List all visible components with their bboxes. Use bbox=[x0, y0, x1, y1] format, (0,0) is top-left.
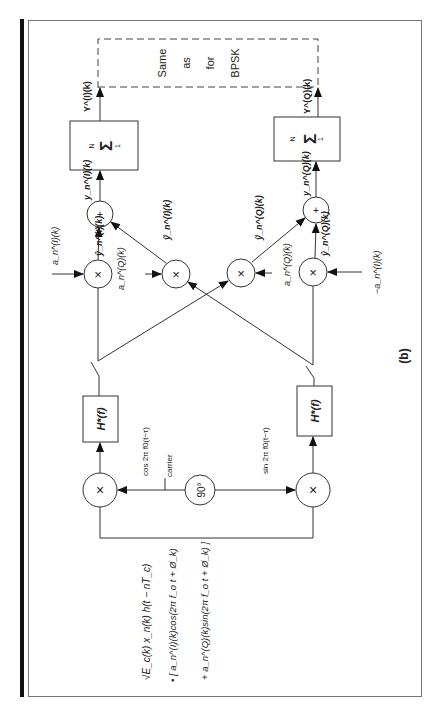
cross-line-q-to-left bbox=[188, 282, 313, 365]
formula-line-2: • [ a_n^(I)(k)cos(2π f_o t + Ø_k) bbox=[167, 548, 178, 682]
label-y-tilde-I: ỹ_n^(I)(k) bbox=[162, 200, 172, 241]
sampler-switch-i bbox=[91, 362, 99, 376]
label-a-n-I: a_n^(I)(k) bbox=[50, 227, 60, 265]
demod-multiplier-i-symbol: × bbox=[96, 482, 104, 498]
label-a-n-Q-left: a_n^(Q)(k) bbox=[116, 247, 126, 290]
multiplier-cross-right-symbol: × bbox=[237, 266, 245, 281]
multiplier-q-a-symbol: × bbox=[309, 265, 317, 280]
label-y-tilde-Q: ỹ_n^(Q)(k) bbox=[254, 195, 264, 241]
cross-line-i-to-right bbox=[98, 281, 228, 361]
annot-line-4: BPSK bbox=[229, 48, 241, 78]
adder-q-symbol: + bbox=[313, 205, 319, 216]
summer-i-block: Σ N 1 bbox=[70, 121, 138, 170]
multiplier-i-a-symbol: × bbox=[94, 267, 102, 282]
filter-i-label: H*(f) bbox=[95, 407, 107, 431]
cos-carrier-label: cos 2π f0(t−τ) bbox=[141, 427, 150, 476]
annot-line-3: for bbox=[204, 56, 216, 69]
formula-line-3: + a_n^(Q)(k)sin(2π f_o t + Ø_k) ] bbox=[199, 542, 210, 680]
demod-multiplier-q-symbol: × bbox=[309, 482, 317, 498]
annot-line-2: as bbox=[180, 57, 192, 69]
phase-shifter-label: 90° bbox=[196, 482, 207, 497]
label-a-n-Q-right: a_n^(Q)(k) bbox=[282, 243, 292, 286]
label-y-n-I: y_n^(I)(k) bbox=[82, 160, 92, 201]
figure-label: (b) bbox=[397, 348, 411, 363]
annot-line-1: Same bbox=[156, 49, 168, 78]
input-feed-line bbox=[100, 507, 313, 538]
multiplier-cross-left-symbol: × bbox=[172, 267, 180, 282]
sin-carrier-label: sin 2π f0(t−τ) bbox=[261, 427, 270, 474]
formula-line-1: √E_c(k) x_n(k) h(t − nT_c) bbox=[141, 564, 152, 680]
label-neg-a-n-I: −a_n^(I)(k) bbox=[372, 251, 382, 294]
input-signal-formula: √E_c(k) x_n(k) h(t − nT_c) • [ a_n^(I)(k… bbox=[141, 542, 210, 682]
label-Y-I: Y^(I)(k) bbox=[82, 81, 92, 112]
summer-i-upper: N bbox=[88, 143, 95, 148]
receiver-block-diagram: Same as for BPSK Σ N 1 Y^(I)(k) + y_n^(I… bbox=[0, 0, 430, 716]
label-y-hat-I: ŷ_n^(I)(k) bbox=[94, 216, 104, 257]
label-Y-Q: Y^(Q)(k) bbox=[302, 79, 312, 114]
summer-i-lower: 1 bbox=[114, 144, 121, 148]
filter-q-label: H*(f) bbox=[309, 399, 321, 423]
summer-q-upper: N bbox=[289, 136, 296, 141]
page-margin-bar bbox=[20, 19, 24, 697]
arrow-mult-q-to-adder bbox=[315, 224, 316, 258]
summer-q-lower: 1 bbox=[317, 137, 324, 141]
sampler-switch-q bbox=[306, 366, 314, 378]
carrier-label: carrier bbox=[165, 454, 174, 477]
label-y-n-Q: y_n^(Q)(k) bbox=[301, 151, 311, 197]
label-y-hat-Q: ŷ_n^(Q)(k) bbox=[320, 211, 330, 257]
same-as-bpsk-box: Same as for BPSK bbox=[98, 39, 318, 88]
